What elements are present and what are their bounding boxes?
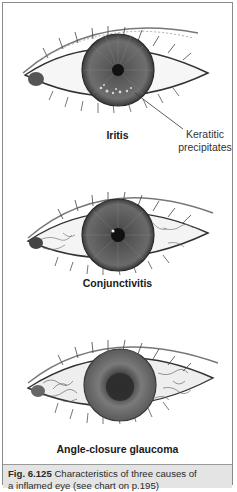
annotation-leader-line bbox=[135, 93, 183, 129]
caption-line1: Fig. 6.125 Characteristics of three caus… bbox=[8, 468, 232, 480]
label-angle-closure-glaucoma: Angle-closure glaucoma bbox=[3, 443, 232, 455]
figure-frame: Iritis Keratitic precipitates bbox=[2, 2, 233, 485]
label-conjunctivitis: Conjunctivitis bbox=[3, 277, 232, 289]
annotation-line1: Keratitic bbox=[175, 128, 235, 141]
figure-number: Fig. 6.125 bbox=[8, 468, 52, 479]
panel-iritis: Iritis Keratitic precipitates bbox=[3, 3, 234, 153]
panel-angle-closure-glaucoma: Angle-closure glaucoma bbox=[3, 303, 234, 464]
caption-text: Characteristics of three causes of bbox=[52, 468, 197, 479]
figure-caption: Fig. 6.125 Characteristics of three caus… bbox=[3, 464, 232, 488]
caption-line2: a inflamed eye (see chart on p.195) bbox=[8, 480, 232, 492]
panel-conjunctivitis: Conjunctivitis bbox=[3, 153, 234, 303]
annotation-keratitic-precipitates: Keratitic precipitates bbox=[175, 128, 235, 154]
eye-illustration-angle-closure-glaucoma bbox=[3, 303, 234, 464]
